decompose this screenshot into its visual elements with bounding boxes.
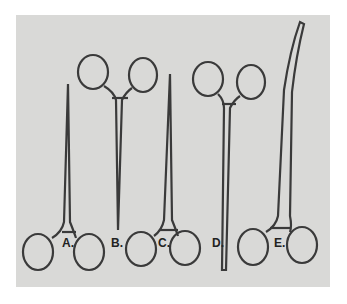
label-e: E. xyxy=(274,236,285,250)
label-a: A. xyxy=(62,236,74,250)
hemostat-b xyxy=(78,55,157,230)
label-b: B. xyxy=(111,236,123,250)
hemostat-e xyxy=(238,22,317,265)
hemostat-d xyxy=(193,62,265,270)
instruments-illustration xyxy=(0,0,347,304)
label-d: D. xyxy=(212,236,224,250)
label-c: C. xyxy=(158,236,170,250)
